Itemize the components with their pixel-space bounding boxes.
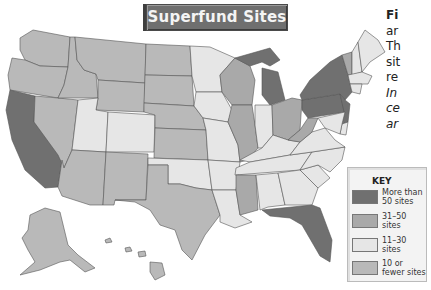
state-nm: [103, 152, 148, 205]
key-swatch: [352, 238, 378, 252]
state-ak: [20, 208, 95, 275]
key-label: 11–30 sites: [382, 237, 406, 254]
state-ms: [236, 175, 258, 215]
caption-line: sit: [386, 55, 401, 71]
map-title: Superfund Sites: [146, 4, 288, 31]
key-entry-11-30: 11–30 sites: [352, 238, 431, 258]
caption-line: In: [386, 86, 401, 102]
caption-text: Fi ar Th sit re In ce ar: [386, 8, 401, 132]
caption-line: ar: [386, 24, 401, 40]
caption-line: Th: [386, 39, 401, 55]
key-label: 31–50 sites: [382, 213, 406, 230]
state-wy: [96, 80, 145, 112]
key-swatch: [352, 190, 378, 204]
key-swatch: [352, 261, 378, 275]
state-nd: [145, 44, 192, 76]
state-ks: [154, 128, 208, 160]
key-entry-more-than-50: More than 50 sites: [352, 190, 431, 210]
key-entry-10-or-fewer: 10 or fewer sites: [352, 261, 431, 281]
key-entry-31-50: 31–50 sites: [352, 214, 431, 234]
caption-line: Fi: [386, 8, 401, 24]
caption-line: ce: [386, 101, 401, 117]
state-sd: [144, 75, 194, 106]
caption-line: ar: [386, 117, 401, 133]
state-fl: [262, 205, 332, 262]
key-title: KEY: [372, 176, 392, 186]
key-swatch: [352, 214, 378, 228]
key-label: More than 50 sites: [382, 189, 423, 206]
state-me: [358, 30, 385, 72]
state-co: [106, 112, 155, 152]
key-label: 10 or fewer sites: [382, 260, 426, 277]
caption-line: re: [386, 70, 401, 86]
map-key: KEY More than 50 sites 31–50 sites 11–30…: [347, 167, 427, 282]
state-hi: [105, 238, 165, 280]
